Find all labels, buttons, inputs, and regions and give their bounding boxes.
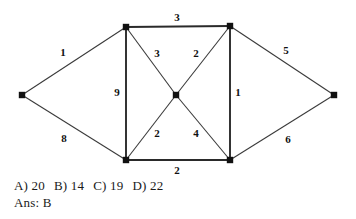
- graph-edge: [230, 26, 334, 95]
- graph-edge: [22, 27, 126, 95]
- edge-weight-label: 2: [193, 48, 199, 59]
- graph-edge: [230, 95, 334, 160]
- edge-weight-label: 3: [154, 48, 160, 59]
- graph-vertex: [331, 92, 337, 98]
- edge-weight-label: 4: [193, 128, 199, 139]
- answer-option-key: D): [133, 178, 151, 193]
- answer-option-key: A): [14, 178, 32, 193]
- answer-option-key: C): [93, 178, 110, 193]
- graph-vertex: [19, 92, 25, 98]
- answer-option-key: B): [54, 178, 71, 193]
- graph-edge: [126, 95, 176, 160]
- answer-block: A) 20B) 14C) 19D) 22 Ans: B: [14, 178, 344, 212]
- graph-vertex: [173, 92, 179, 98]
- edge-weight-label: 2: [174, 165, 180, 176]
- answer-label: Ans:: [14, 195, 39, 210]
- graph-vertex: [123, 24, 129, 30]
- graph-edge: [126, 27, 176, 95]
- answer-option: B) 14: [54, 178, 84, 193]
- answer-row: Ans: B: [14, 195, 344, 211]
- answer-option-value: 20: [32, 178, 45, 193]
- answer-option-value: 19: [110, 178, 123, 193]
- graph-edge: [176, 26, 230, 95]
- edge-weight-label: 2: [154, 128, 160, 139]
- edge-weight-label: 3: [174, 12, 180, 23]
- answer-option-value: 14: [71, 178, 84, 193]
- edge-weight-label: 9: [114, 87, 120, 98]
- answer-options-row: A) 20B) 14C) 19D) 22: [14, 178, 344, 194]
- graph-edge: [126, 26, 230, 27]
- answer-option: C) 19: [93, 178, 123, 193]
- edge-weight-label: 8: [61, 133, 67, 144]
- graph-edge: [176, 95, 230, 160]
- graph-vertex: [227, 157, 233, 163]
- edge-weight-label: 1: [60, 47, 66, 58]
- edge-weight-label: 6: [285, 134, 291, 145]
- graph-edge: [22, 95, 126, 160]
- edge-weight-label: 1: [235, 87, 241, 98]
- figure-page: 183932152426 A) 20B) 14C) 19D) 22 Ans: B: [0, 0, 356, 219]
- graph-vertex: [227, 23, 233, 29]
- answer-value: B: [43, 195, 52, 210]
- answer-option: A) 20: [14, 178, 45, 193]
- answer-option: D) 22: [133, 178, 164, 193]
- graph-vertex: [123, 157, 129, 163]
- answer-option-value: 22: [150, 178, 163, 193]
- edge-weight-label: 5: [283, 45, 289, 56]
